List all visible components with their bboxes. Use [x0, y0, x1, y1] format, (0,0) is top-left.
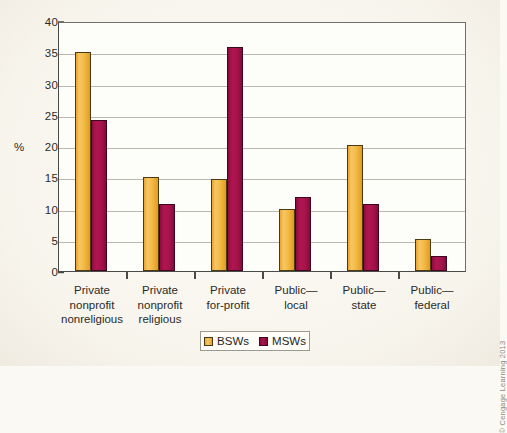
y-tick-label: 40 — [32, 16, 58, 28]
x-tick-mark — [194, 272, 196, 279]
chart-legend: BSWs MSWs — [200, 331, 310, 351]
legend-label-msws: MSWs — [272, 335, 306, 347]
bar-msws-1 — [159, 204, 175, 271]
bsw-swatch-icon — [204, 337, 213, 346]
x-tick-mark — [262, 272, 264, 279]
x-tick-mark — [330, 272, 332, 279]
y-tick-label: 10 — [32, 204, 58, 216]
y-axis: 0510152025303540 — [22, 22, 58, 272]
bars-layer — [59, 23, 465, 271]
x-tick-mark — [398, 272, 400, 279]
msw-swatch-icon — [259, 337, 268, 346]
plot-area — [58, 22, 466, 272]
y-axis-title: % — [14, 141, 24, 153]
bar-bsws-5 — [415, 239, 431, 271]
x-category-line: federal — [384, 298, 480, 313]
bar-msws-3 — [295, 197, 311, 271]
bar-msws-4 — [363, 204, 379, 271]
legend-label-bsws: BSWs — [217, 335, 249, 347]
bar-msws-2 — [227, 47, 243, 271]
bar-bsws-2 — [211, 179, 227, 272]
bar-bsws-0 — [75, 52, 91, 271]
x-category-line: religious — [112, 312, 208, 327]
x-category-label-5: Public—federal — [384, 283, 480, 312]
y-tick-label: 20 — [32, 141, 58, 153]
bar-msws-5 — [431, 256, 447, 271]
y-tick-label: 35 — [32, 47, 58, 59]
bar-bsws-3 — [279, 209, 295, 272]
legend-item-bsws: BSWs — [204, 335, 249, 347]
legend-item-msws: MSWs — [259, 335, 306, 347]
x-tick-mark — [126, 272, 128, 279]
y-tick-label: 15 — [32, 172, 58, 184]
y-tick-label: 0 — [32, 266, 58, 278]
y-tick-label: 30 — [32, 79, 58, 91]
copyright-credit: © Cengage Learning 2013 — [498, 341, 507, 433]
bar-bsws-4 — [347, 145, 363, 271]
bar-bsws-1 — [143, 177, 159, 271]
x-category-line: Public— — [384, 283, 480, 298]
bar-msws-0 — [91, 120, 107, 271]
y-tick-label: 25 — [32, 110, 58, 122]
y-tick-label: 5 — [32, 235, 58, 247]
